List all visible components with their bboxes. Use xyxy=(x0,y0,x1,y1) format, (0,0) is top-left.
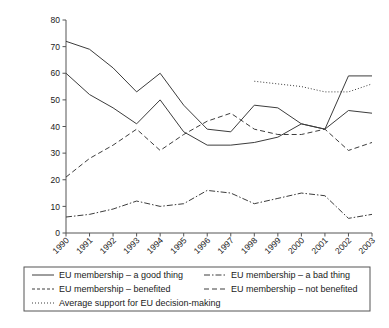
x-tick-label: 2001 xyxy=(309,235,330,256)
x-tick-label: 2000 xyxy=(286,235,307,256)
y-tick-label: 40 xyxy=(51,122,61,132)
line-chart: 0102030405060708019901991199219931994199… xyxy=(0,0,389,328)
x-tick-label: 1992 xyxy=(98,235,119,256)
y-tick-label: 70 xyxy=(51,42,61,52)
chart-series-group xyxy=(66,41,372,218)
x-tick-label: 1993 xyxy=(121,235,142,256)
x-tick-label: 1999 xyxy=(262,235,283,256)
x-tick-label: 1995 xyxy=(168,235,189,256)
series-line-1 xyxy=(66,73,372,145)
x-tick-label: 1997 xyxy=(215,235,236,256)
legend-label-1: EU membership – a bad thing xyxy=(231,270,350,280)
series-line-0 xyxy=(66,41,372,132)
series-line-3 xyxy=(66,190,372,218)
y-tick-label: 0 xyxy=(55,228,60,238)
x-tick-label: 1990 xyxy=(50,235,71,256)
x-tick-label: 1996 xyxy=(192,235,213,256)
y-tick-label: 60 xyxy=(51,68,61,78)
series-line-4 xyxy=(254,81,372,92)
chart-axes: 0102030405060708019901991199219931994199… xyxy=(50,15,377,256)
y-tick-label: 10 xyxy=(51,202,61,212)
legend-label-0: EU membership – a good thing xyxy=(59,270,183,280)
chart-legend: EU membership – a good thingEU membershi… xyxy=(24,267,370,311)
x-tick-label: 1998 xyxy=(239,235,260,256)
y-tick-label: 20 xyxy=(51,175,61,185)
figure-container: 0102030405060708019901991199219931994199… xyxy=(0,0,389,328)
x-tick-label: 2003 xyxy=(356,235,377,256)
legend-label-4: Average support for EU decision-making xyxy=(59,298,220,308)
x-tick-label: 2002 xyxy=(333,235,354,256)
legend-label-3: EU membership – not benefited xyxy=(231,284,358,294)
x-tick-label: 1994 xyxy=(145,235,166,256)
y-tick-label: 30 xyxy=(51,148,61,158)
y-tick-label: 80 xyxy=(51,15,61,25)
y-tick-label: 50 xyxy=(51,95,61,105)
x-tick-label: 1991 xyxy=(74,235,95,256)
legend-label-2: EU membership – benefited xyxy=(59,284,171,294)
